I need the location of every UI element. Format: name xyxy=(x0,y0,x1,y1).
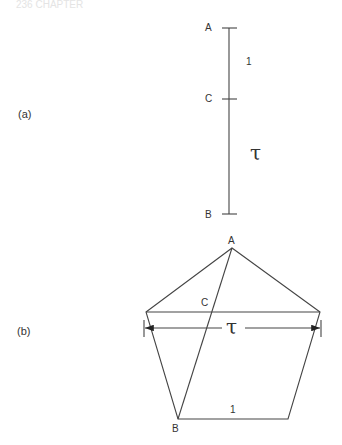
intersection-c-label: C xyxy=(201,297,208,308)
part-a-label: (a) xyxy=(18,108,31,120)
side-length-label: 1 xyxy=(230,404,236,415)
point-b-label: B xyxy=(205,209,212,220)
part-a-segment-diagram: (a) A C B 1 τ xyxy=(18,22,261,220)
diagonal-length-label: τ xyxy=(226,315,237,339)
vertex-b-label: B xyxy=(172,423,179,434)
vertex-a-label: A xyxy=(228,235,235,246)
part-b-pentagon-diagram: (b) τ A C B 1 xyxy=(17,235,321,434)
segment-ac-length: 1 xyxy=(246,56,252,67)
part-b-label: (b) xyxy=(17,325,30,337)
golden-ratio-diagram: 236 CHAPTER (a) A C B 1 τ (b) τ A C B 1 xyxy=(0,0,342,445)
segment-cb-length: τ xyxy=(250,141,261,165)
point-a-label: A xyxy=(205,22,212,33)
diagonal-ab xyxy=(178,248,232,419)
page-header: 236 CHAPTER xyxy=(16,0,83,10)
point-c-label: C xyxy=(205,93,212,104)
